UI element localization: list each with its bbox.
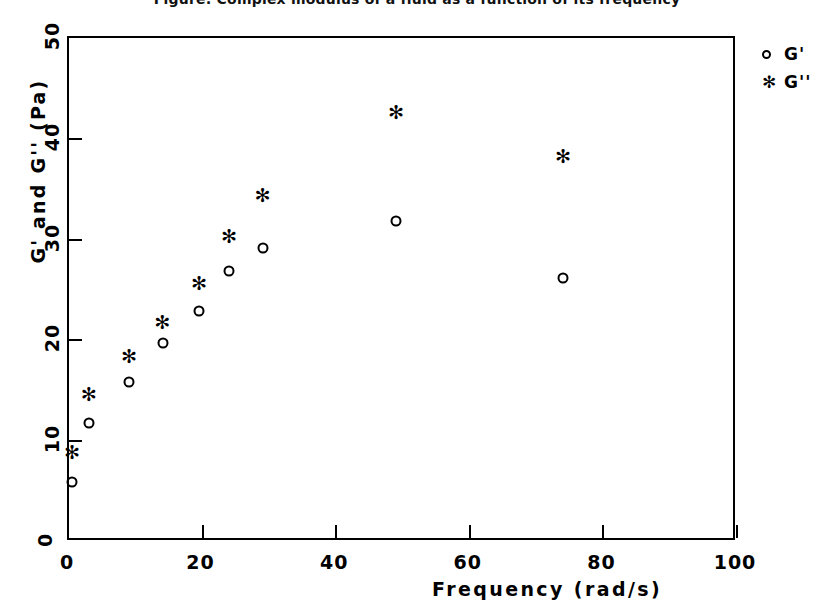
legend-item-g2[interactable]: ✻G''	[762, 68, 834, 96]
x-axis-tick	[602, 525, 604, 538]
data-point-g2: ✻	[81, 385, 97, 404]
data-point-g2: ✻	[555, 147, 571, 166]
y-axis-tick-label: 10	[41, 425, 63, 453]
y-axis-title: G' and G'' (Pa)	[27, 41, 49, 301]
data-point-g1	[194, 306, 205, 317]
chart-title: Figure: Complex modulus of a fluid as a …	[0, 0, 834, 9]
data-point-g1	[558, 272, 569, 283]
y-axis-tick	[69, 138, 82, 140]
legend-item-g1[interactable]: G'	[762, 40, 834, 68]
data-point-g1	[67, 476, 78, 487]
legend-label: G''	[784, 72, 811, 92]
data-point-g2: ✻	[191, 274, 207, 293]
plot-area: ✻✻✻✻✻✻✻✻✻	[67, 36, 735, 540]
x-axis-tick	[736, 525, 738, 538]
y-axis-tick-label: 20	[41, 324, 63, 352]
x-axis-tick-label: 40	[320, 551, 348, 573]
chart-legend: G'✻G''	[762, 40, 834, 96]
y-axis-tick	[69, 239, 82, 241]
data-point-g2: ✻	[155, 313, 171, 332]
data-point-g1	[124, 376, 135, 387]
x-axis-tick-label: 20	[186, 551, 214, 573]
data-point-g1	[391, 216, 402, 227]
y-axis-tick-label: 0	[34, 533, 56, 547]
data-point-g2: ✻	[221, 227, 237, 246]
x-axis-tick	[335, 525, 337, 538]
x-axis-tick	[469, 525, 471, 538]
y-axis-tick	[69, 339, 82, 341]
data-point-g2: ✻	[388, 103, 404, 122]
data-point-g2: ✻	[255, 186, 271, 205]
data-point-g2: ✻	[121, 347, 137, 366]
x-axis-tick-label: 60	[454, 551, 482, 573]
open-circle-icon	[762, 50, 784, 59]
data-point-g2: ✻	[64, 443, 80, 462]
x-axis-title: Frequency (rad/s)	[432, 578, 662, 600]
asterisk-icon: ✻	[762, 77, 784, 87]
x-axis-tick-label: 0	[60, 551, 74, 573]
x-axis-tick-label: 100	[714, 551, 757, 573]
legend-label: G'	[784, 44, 805, 64]
data-point-g1	[157, 338, 168, 349]
data-point-g1	[84, 418, 95, 429]
data-point-g1	[257, 242, 268, 253]
data-point-g1	[224, 265, 235, 276]
x-axis-tick-label: 80	[587, 551, 615, 573]
x-axis-tick	[202, 525, 204, 538]
